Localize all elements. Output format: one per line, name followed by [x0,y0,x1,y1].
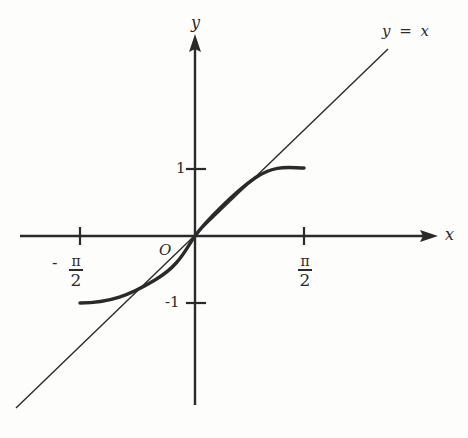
two-denominator: 2 [295,272,315,289]
origin-label: O [159,243,171,258]
pi-numerator: π [66,254,86,268]
x-tick-neg-sign: - [52,255,57,271]
y-axis-label: y [191,15,200,31]
x-axis-label: x [445,227,454,243]
y-tick-label-1: 1 [176,161,186,176]
x-tick-label-neg-pi-half: π 2 [66,254,86,289]
two-denominator: 2 [66,272,86,289]
y-tick-label-neg-1: -1 [165,295,180,310]
sine-vs-line-figure: y x O y = x 1 -1 - π 2 π 2 [0,0,468,438]
line-label: y = x [382,24,431,39]
plot-canvas [0,0,468,438]
x-tick-label-pi-half: π 2 [295,254,315,289]
pi-numerator: π [295,254,315,268]
